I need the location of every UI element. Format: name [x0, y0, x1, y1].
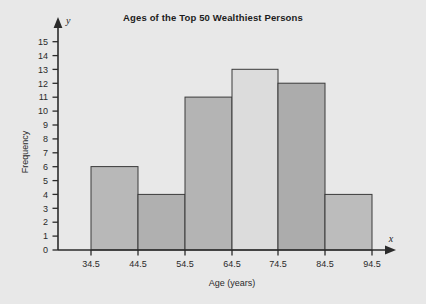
bar-54.5-64.5	[185, 97, 232, 250]
bar-74.5-84.5	[278, 83, 325, 250]
y-axis-label: Frequency	[20, 130, 30, 173]
x-tick-label: 54.5	[176, 259, 194, 269]
x-axis-arrow	[385, 246, 396, 255]
bar-64.5-74.5	[232, 69, 278, 250]
y-tick-label: 12	[38, 79, 48, 89]
figure-canvas: Ages of the Top 50 Wealthiest Persons	[0, 0, 426, 304]
y-tick-label: 11	[39, 92, 48, 102]
y-tick-label: 9	[43, 120, 48, 130]
y-tick-label: 5	[43, 176, 48, 186]
y-tick-label: 2	[43, 217, 48, 227]
y-tick-label: 14	[38, 51, 48, 61]
x-tick-labels: 34.5 44.5 54.5 64.5 74.5 84.5 94.5	[82, 259, 381, 269]
y-tick-label: 15	[38, 37, 48, 47]
y-axis-variable-symbol: y	[65, 15, 71, 26]
x-axis-label: Age (years)	[209, 278, 256, 288]
y-axis-arrow	[54, 17, 63, 28]
bar-series	[91, 69, 372, 250]
y-tick-label: 13	[38, 65, 48, 75]
x-tick-label: 94.5	[363, 259, 381, 269]
x-tick-label: 64.5	[223, 259, 241, 269]
y-tick-label: 4	[43, 190, 48, 200]
histogram-plot: 0 1 2 3 4 5 6 7 8 9 10 11 12 13 14 15	[0, 0, 426, 304]
y-tick-label: 8	[43, 134, 48, 144]
y-tick-label: 0	[43, 245, 48, 255]
x-tick-label: 84.5	[316, 259, 334, 269]
y-tick-labels: 0 1 2 3 4 5 6 7 8 9 10 11 12 13 14 15	[38, 37, 48, 255]
x-tick-label: 44.5	[129, 259, 147, 269]
y-tick-label: 6	[43, 162, 48, 172]
bar-34.5-44.5	[91, 167, 138, 250]
y-tick-label: 10	[38, 106, 48, 116]
y-tick-label: 7	[43, 148, 48, 158]
x-tick-label: 34.5	[82, 259, 100, 269]
bar-44.5-54.5	[138, 194, 185, 250]
bar-84.5-94.5	[325, 194, 372, 250]
y-tick-label: 3	[43, 204, 48, 214]
y-axis	[54, 17, 63, 250]
x-tick-marks	[91, 250, 372, 256]
x-tick-label: 74.5	[269, 259, 287, 269]
x-axis-variable-symbol: x	[388, 233, 394, 244]
y-tick-label: 1	[43, 231, 48, 241]
y-tick-marks	[53, 42, 59, 250]
